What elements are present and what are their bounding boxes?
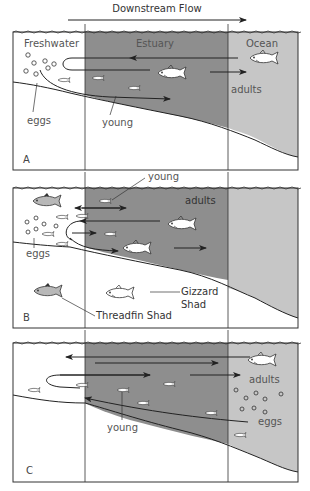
zone-label-ocean: Ocean	[246, 38, 278, 49]
label-eggs: eggs	[27, 115, 51, 126]
label-young: young	[102, 117, 133, 128]
young-fish	[58, 78, 70, 83]
panel-a: Freshwater Estuary Ocean eggs young adul…	[13, 24, 301, 170]
panel-letter-b: B	[23, 312, 30, 323]
threadfin-shad-legend-icon	[34, 283, 62, 297]
zone-label-estuary: Estuary	[136, 38, 174, 49]
label-young: young	[148, 171, 179, 182]
panel-c: young adults eggs C	[13, 330, 301, 482]
panel-letter-a: A	[23, 154, 30, 165]
panel-letter-c: C	[26, 465, 33, 476]
young-fish	[42, 232, 54, 237]
label-eggs: eggs	[258, 416, 282, 427]
downstream-flow-header: Downstream Flow	[68, 3, 246, 20]
zone-label-freshwater: Freshwater	[24, 38, 80, 49]
gizzard-shad-legend-icon	[106, 285, 134, 299]
estuary-fish-lifecycle-diagram: Downstream Flow Freshwater Estuary Ocean…	[0, 0, 310, 491]
label-adults: adults	[249, 374, 280, 385]
ocean-zone	[228, 188, 298, 318]
label-young: young	[107, 422, 138, 433]
young-fish	[56, 215, 68, 220]
downstream-flow-label: Downstream Flow	[112, 3, 201, 14]
legend-gizzard-shad-line2: Shad	[181, 299, 206, 310]
young-fish	[28, 388, 40, 393]
young-fish	[56, 242, 68, 247]
eggs-cluster	[25, 216, 58, 234]
label-adults: adults	[231, 84, 262, 95]
label-eggs: eggs	[26, 248, 50, 259]
legend-gizzard-shad-line1: Gizzard	[181, 286, 218, 297]
label-adults: adults	[185, 195, 216, 206]
legend-threadfin-shad: Threadfin Shad	[95, 310, 172, 321]
panel-b: young adults eggs Threadfin Shad Gizzar	[13, 171, 301, 328]
eggs-cluster	[24, 53, 56, 76]
threadfin-shad-fish	[33, 193, 61, 207]
